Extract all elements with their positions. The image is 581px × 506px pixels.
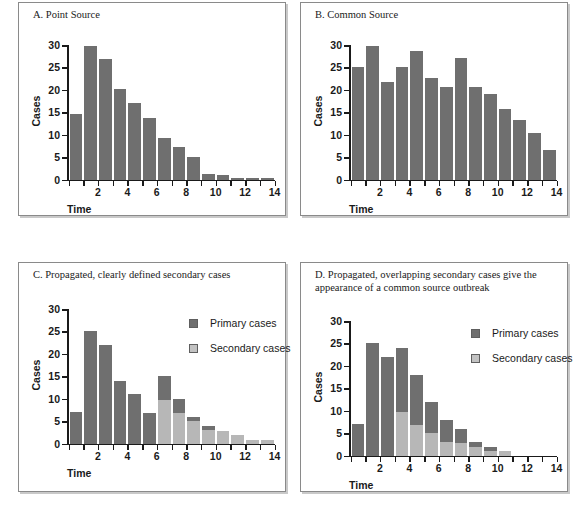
x-tick-label: 6 <box>154 450 160 462</box>
x-tick <box>424 457 426 462</box>
x-tick <box>365 457 367 462</box>
bar <box>425 78 438 180</box>
y-tick-label: 15 <box>330 382 342 394</box>
bar-segment-primary <box>173 399 186 413</box>
bar <box>381 82 394 179</box>
x-tick <box>83 181 85 186</box>
bar-segment <box>410 51 423 180</box>
bar-segment-primary <box>99 345 112 444</box>
y-tick <box>62 309 67 311</box>
y-tick-label: 25 <box>330 337 342 349</box>
x-tick <box>142 445 144 450</box>
bar <box>528 133 541 180</box>
bar-segment-primary <box>425 402 438 433</box>
bar-segment <box>143 118 156 179</box>
bar-segment-primary <box>128 394 141 443</box>
x-tick-label: 8 <box>183 450 189 462</box>
x-tick <box>230 181 232 186</box>
bar <box>231 178 244 180</box>
bar-segment-primary <box>352 424 365 455</box>
x-tick <box>172 445 174 450</box>
bar-segment-secondary <box>499 451 512 455</box>
y-tick-label: 30 <box>48 39 60 51</box>
x-tick <box>365 181 367 186</box>
bar <box>231 435 244 444</box>
y-tick-label: 0 <box>336 450 342 462</box>
panel-c-plot: Cases 0510152025302468101214 Time <box>67 309 275 445</box>
bar-segment <box>187 157 200 179</box>
panel-c-axes: 0510152025302468101214 <box>67 309 275 445</box>
x-tick <box>483 457 485 462</box>
panel-b-axes: 0510152025302468101214 <box>349 45 557 181</box>
x-tick-label: 12 <box>239 186 251 198</box>
y-tick-label: 0 <box>54 174 60 186</box>
bar <box>366 343 379 455</box>
bar-segment-secondary <box>455 443 468 456</box>
bar <box>261 440 274 443</box>
x-tick <box>395 181 397 186</box>
x-tick <box>69 445 71 450</box>
bar <box>352 67 365 179</box>
y-tick <box>62 331 67 333</box>
y-tick <box>344 366 349 368</box>
bar-segment <box>261 178 274 179</box>
bar-segment-secondary <box>396 412 409 456</box>
bar-segment-secondary <box>469 447 482 456</box>
bar <box>246 178 259 179</box>
y-tick-label: 25 <box>48 61 60 73</box>
bar-segment-primary <box>158 376 171 400</box>
y-tick-label: 20 <box>330 84 342 96</box>
y-tick-label: 10 <box>48 393 60 405</box>
bar <box>366 46 379 180</box>
bar-segment <box>381 82 394 179</box>
bar-segment-secondary <box>217 431 230 444</box>
x-tick-label: 14 <box>269 186 281 198</box>
bar-segment <box>70 114 83 180</box>
x-tick <box>172 181 174 186</box>
bar-segment <box>499 109 512 179</box>
bar-segment-primary <box>114 381 127 444</box>
panel-a-axes: 0510152025302468101214 <box>67 45 275 181</box>
bar-segment-secondary <box>261 440 274 443</box>
y-tick-label: 5 <box>54 151 60 163</box>
x-tick <box>142 181 144 186</box>
panel-a-bars <box>69 45 275 180</box>
bar-segment-secondary <box>425 433 438 455</box>
bar <box>70 412 83 443</box>
x-tick-label: 4 <box>124 186 130 198</box>
y-tick <box>62 354 67 356</box>
y-tick-label: 0 <box>336 174 342 186</box>
panel-b-plot: Cases 0510152025302468101214 Time <box>349 45 557 181</box>
bar <box>187 157 200 179</box>
panel-b-ylabel: Cases <box>312 96 324 127</box>
bar-segment-primary <box>396 348 409 411</box>
bar <box>440 87 453 179</box>
bar <box>217 431 230 444</box>
x-tick <box>201 445 203 450</box>
y-tick <box>344 67 349 69</box>
bar-segment-primary <box>84 331 97 443</box>
bar <box>261 178 274 179</box>
bar-segment <box>231 178 244 180</box>
x-tick <box>454 457 456 462</box>
y-tick-label: 10 <box>330 405 342 417</box>
y-tick-label: 15 <box>48 370 60 382</box>
bar <box>173 399 186 443</box>
x-tick-label: 6 <box>436 462 442 474</box>
bar <box>440 420 453 456</box>
panel-d-plot: Cases 0510152025302468101214 Time <box>349 321 557 457</box>
x-tick <box>542 181 544 186</box>
y-tick <box>344 411 349 413</box>
bar-segment <box>528 133 541 180</box>
bar-segment-primary <box>381 357 394 456</box>
y-tick <box>62 376 67 378</box>
x-tick-label: 12 <box>521 462 533 474</box>
x-tick-label: 14 <box>551 462 563 474</box>
y-tick <box>344 456 349 458</box>
y-tick <box>62 444 67 446</box>
x-tick-label: 4 <box>124 450 130 462</box>
bar-segment <box>440 87 453 179</box>
panel-d: D. Propagated, overlapping secondary cas… <box>300 262 568 492</box>
panel-c-title: C. Propagated, clearly defined secondary… <box>33 269 277 282</box>
bar <box>246 440 259 443</box>
